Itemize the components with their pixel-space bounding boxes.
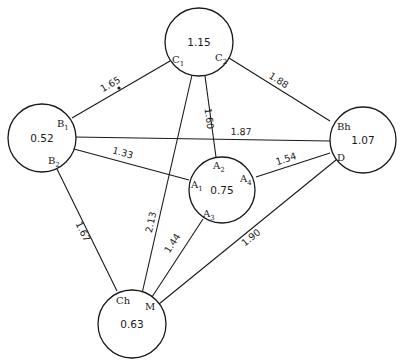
- edge-weight-label: 1.88: [267, 70, 291, 91]
- port-label: Ch: [116, 295, 131, 306]
- edge-weight-label: 1.44: [162, 231, 183, 255]
- edge-weight-label: 1.60: [203, 107, 217, 129]
- edge: 1.67: [57, 169, 117, 291]
- edge-line: [229, 58, 330, 121]
- edge: 1.65: [72, 61, 170, 118]
- nodes-group: 1.15C1C20.52B1B21.07BhD0.75A2A1A4A30.63C…: [8, 8, 396, 358]
- node-value: 1.15: [187, 36, 210, 48]
- edge-line: [152, 219, 203, 297]
- node-value: 0.52: [30, 132, 53, 144]
- node-bhd: 1.07BhD: [330, 107, 396, 173]
- node-value: 1.07: [351, 134, 374, 146]
- node-c: 1.15C1C2: [165, 8, 233, 76]
- edge-line: [74, 137, 330, 141]
- edge: 2.13: [141, 75, 192, 298]
- node-chm: 0.63ChM: [98, 290, 166, 358]
- network-diagram: 1.651.882.131.601.871.331.671.541.441.90…: [0, 0, 400, 364]
- node-value: 0.75: [210, 184, 233, 196]
- edge-line: [72, 61, 170, 118]
- port-label: M: [145, 301, 155, 312]
- edge-line: [141, 75, 192, 298]
- edge: 1.44: [152, 219, 203, 297]
- edge-weight-label: 1.90: [239, 226, 262, 248]
- port-label: Bh: [337, 121, 351, 132]
- edge: 1.87: [74, 126, 330, 141]
- edge: 1.54: [256, 150, 330, 177]
- edge-weight-label: 1.87: [230, 126, 251, 137]
- port-label: D: [337, 152, 345, 163]
- decorations-group: [117, 86, 120, 89]
- stray-dot: [117, 86, 120, 89]
- edge: 1.88: [229, 58, 330, 121]
- node-b: 0.52B1B2: [8, 104, 76, 172]
- node-a: 0.75A2A1A4A3: [189, 157, 255, 223]
- edge: 1.60: [203, 76, 217, 157]
- edge-weight-label: 1.33: [111, 145, 134, 161]
- edge-weight-label: 1.67: [74, 220, 93, 244]
- node-value: 0.63: [120, 318, 143, 330]
